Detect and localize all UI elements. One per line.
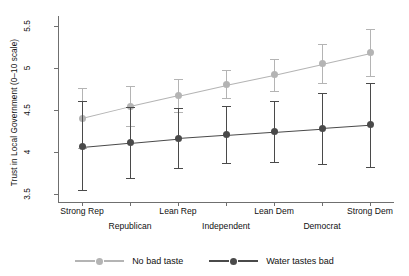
chart-legend: No bad tasteWater tastes bad (0, 250, 409, 272)
error-bar-cap (78, 101, 87, 102)
error-bar-cap (270, 162, 279, 163)
legend-line (75, 260, 95, 262)
series-line-segment (274, 128, 322, 133)
error-bar-cap (174, 168, 183, 169)
error-bar-cap (78, 88, 87, 89)
y-tick-label: 4 (12, 136, 44, 168)
data-point (319, 60, 326, 67)
error-bar-cap (222, 98, 231, 99)
series-line-segment (226, 75, 274, 86)
y-tick (54, 26, 58, 27)
series-line-segment (274, 64, 322, 76)
x-tick (226, 202, 227, 206)
series-line-segment (82, 106, 130, 119)
error-bar-cap (366, 83, 375, 84)
data-point (367, 49, 374, 56)
error-bar-cap (318, 83, 327, 84)
series-line-segment (130, 138, 178, 143)
error-bar-cap (270, 59, 279, 60)
legend-line (104, 260, 124, 262)
data-point (271, 128, 278, 135)
y-axis-line (58, 16, 59, 202)
error-bar-cap (318, 164, 327, 165)
error-bar-cap (126, 86, 135, 87)
error-bar-cap (366, 167, 375, 168)
error-bar-cap (78, 190, 87, 191)
error-bar-cap (222, 163, 231, 164)
data-point (223, 81, 230, 88)
y-tick-label: 5.5 (12, 10, 44, 42)
y-tick-label: 3.5 (12, 178, 44, 210)
y-tick (54, 194, 58, 195)
legend-line (238, 260, 258, 262)
series-line-segment (130, 96, 178, 108)
x-tick-label: Lean Dem (254, 206, 294, 216)
x-tick (322, 202, 323, 206)
x-tick-label: Independent (202, 221, 250, 231)
error-bar-cap (174, 108, 183, 109)
data-point (319, 125, 326, 132)
x-tick-label: Republican (109, 221, 152, 231)
data-point (223, 131, 230, 138)
data-point (271, 71, 278, 78)
error-bar-cap (318, 93, 327, 94)
error-bar-cap (222, 106, 231, 107)
legend-item[interactable]: Water tastes bad (209, 256, 334, 266)
legend-label: No bad taste (132, 256, 183, 266)
y-tick (54, 68, 58, 69)
error-bar-cap (366, 29, 375, 30)
x-tick-label: Strong Rep (60, 206, 103, 216)
chart-figure: Trust in Local Government (0–10 scale) 3… (0, 0, 409, 276)
error-bar-cap (318, 44, 327, 45)
legend-item[interactable]: No bad taste (75, 256, 183, 266)
error-bar-cap (174, 79, 183, 80)
error-bar-cap (126, 107, 135, 108)
data-point (127, 139, 134, 146)
series-line-segment (322, 53, 370, 65)
error-bar-cap (270, 91, 279, 92)
series-line-segment (226, 132, 274, 137)
series-line-segment (82, 143, 130, 148)
y-tick-label: 4.5 (12, 94, 44, 126)
x-tick (130, 202, 131, 206)
y-tick (54, 110, 58, 111)
legend-marker-icon (96, 258, 103, 265)
data-point (79, 143, 86, 150)
legend-line (209, 260, 229, 262)
y-tick (54, 152, 58, 153)
legend-label: Water tastes bad (266, 256, 334, 266)
error-bar-cap (270, 101, 279, 102)
error-bar-cap (126, 178, 135, 179)
x-tick-label: Strong Dem (347, 206, 393, 216)
data-point (175, 92, 182, 99)
plot-area (58, 16, 394, 202)
data-point (175, 135, 182, 142)
series-line-segment (178, 85, 226, 97)
legend-marker-icon (230, 258, 237, 265)
data-point (367, 121, 374, 128)
series-line-segment (322, 125, 370, 130)
x-tick-label: Democrat (303, 221, 340, 231)
error-bar-cap (222, 70, 231, 71)
y-tick-label: 5 (12, 52, 44, 84)
error-bar-cap (366, 76, 375, 77)
x-tick-label: Lean Rep (159, 206, 196, 216)
series-line-segment (178, 135, 226, 140)
